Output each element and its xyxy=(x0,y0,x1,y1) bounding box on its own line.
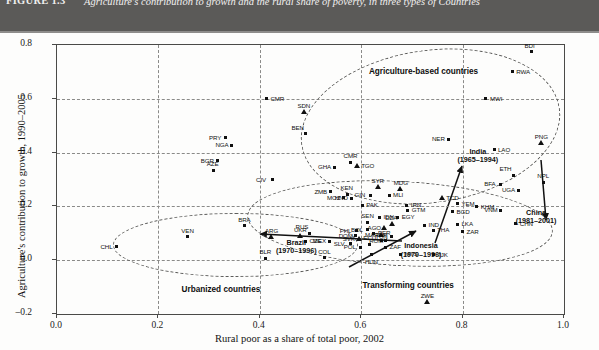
data-point-label: ARG xyxy=(265,227,278,234)
data-point-label: SEN xyxy=(361,212,373,219)
data-point-label: CHL xyxy=(100,243,112,250)
data-point xyxy=(530,50,533,53)
y-tick-label: 0.6 xyxy=(20,92,32,102)
data-point-label: THA xyxy=(437,226,449,233)
data-point-label: NPL xyxy=(537,172,549,179)
data-point xyxy=(461,230,464,233)
data-point xyxy=(451,210,454,213)
data-point-label: GIN xyxy=(354,191,365,198)
data-point xyxy=(265,97,268,100)
data-point xyxy=(370,253,373,256)
data-point-label: GHA xyxy=(318,163,331,170)
trajectory-label-line2: (1981–2001) xyxy=(516,216,557,225)
data-point-label: BGD xyxy=(456,208,469,215)
x-tick-mark xyxy=(462,314,463,318)
x-tick-mark xyxy=(157,314,158,318)
data-point xyxy=(368,243,371,246)
data-point xyxy=(323,256,326,259)
y-tick-label: 0.4 xyxy=(20,146,32,156)
data-point xyxy=(366,228,369,231)
group-label-2: Transforming countries xyxy=(362,281,453,290)
data-point xyxy=(380,239,383,242)
data-point xyxy=(308,232,311,235)
trajectory-label: Indonesia(1970–1996) xyxy=(397,242,445,259)
data-point-label: SDN xyxy=(297,102,310,109)
data-point xyxy=(384,246,387,249)
data-point-label: PAK xyxy=(366,201,378,208)
data-point-label: RUS xyxy=(296,223,309,230)
data-point xyxy=(512,174,515,177)
y-tick-label: –0.2 xyxy=(15,307,32,317)
plot-frame: BDIRWAMWICMRSDNBENPRYNGANERPNGLAOCMRTGOG… xyxy=(56,44,565,315)
data-point xyxy=(328,240,331,243)
data-point-label: BLR xyxy=(259,248,271,255)
x-tick-label: 1.0 xyxy=(549,320,577,330)
data-point-label: ZMB xyxy=(314,188,327,195)
data-point-label: EGY xyxy=(402,213,415,220)
data-point xyxy=(271,178,274,181)
data-point-label: MWI xyxy=(490,95,502,102)
data-point xyxy=(439,195,445,200)
data-point-label: NER xyxy=(432,135,445,142)
data-point xyxy=(361,204,364,207)
x-tick-label: 0.2 xyxy=(143,320,171,330)
data-point xyxy=(511,70,514,73)
y-tick-mark xyxy=(52,205,56,206)
data-point xyxy=(538,140,544,145)
data-point xyxy=(186,235,189,238)
data-point-label: UGA xyxy=(502,186,515,193)
data-point xyxy=(230,144,233,147)
group-label-3: Urbanized countries xyxy=(182,285,261,294)
data-point xyxy=(388,194,391,197)
y-tick-label: 0.0 xyxy=(20,253,32,263)
data-point-label: BDI xyxy=(525,42,535,49)
data-point-label: TCD xyxy=(446,194,458,201)
data-point xyxy=(301,109,307,114)
data-point xyxy=(499,183,502,186)
data-point xyxy=(375,184,381,189)
data-point-label: ZAR xyxy=(467,228,479,235)
data-point-label: HUN xyxy=(365,258,378,265)
data-point-label: HND xyxy=(335,194,348,201)
data-point-label: BEN xyxy=(292,124,304,131)
data-point xyxy=(243,224,246,227)
gridline-vertical xyxy=(158,45,159,314)
data-point-label: VEN xyxy=(181,227,193,234)
data-point xyxy=(333,166,336,169)
data-point xyxy=(517,189,520,192)
data-point xyxy=(378,216,381,219)
data-point xyxy=(475,205,478,208)
data-point xyxy=(349,161,352,164)
data-point-label: TGO xyxy=(361,162,374,169)
x-tick-mark xyxy=(360,314,361,318)
data-point-label: PNG xyxy=(535,133,548,140)
x-tick-mark xyxy=(259,314,260,318)
data-point-label: LKA xyxy=(462,220,473,227)
trajectory-label: China(1981–2001) xyxy=(512,209,560,226)
data-point xyxy=(424,299,430,304)
x-tick-label: 0.4 xyxy=(245,320,273,330)
data-point-label: PRY xyxy=(209,134,221,141)
data-point xyxy=(423,224,426,227)
data-point xyxy=(359,246,362,249)
data-point xyxy=(389,221,395,226)
x-tick-label: 0.8 xyxy=(448,320,476,330)
figure-caption-bar: FIGURE 1.3 Agriculture's contribution to… xyxy=(0,0,599,31)
data-point-label: TUR xyxy=(375,231,387,238)
y-tick-mark xyxy=(52,152,56,153)
data-point-label: DZA xyxy=(385,214,397,221)
y-axis-title: Agriculture's contribution to growth, 19… xyxy=(16,94,27,298)
trajectory-label: India(1965–1994) xyxy=(454,148,502,165)
data-point xyxy=(366,221,369,224)
data-point xyxy=(350,197,353,200)
figure-root: FIGURE 1.3 Agriculture's contribution to… xyxy=(0,0,599,350)
data-point xyxy=(447,138,450,141)
ellipse-urbanized xyxy=(113,213,358,277)
data-point-label: RWA xyxy=(516,68,530,75)
data-point-label: ETH xyxy=(499,165,511,172)
data-point-label: CMR xyxy=(270,95,284,102)
data-point xyxy=(224,136,227,139)
data-point xyxy=(405,204,408,207)
data-point xyxy=(432,229,435,232)
data-point-label: YEM xyxy=(462,200,475,207)
